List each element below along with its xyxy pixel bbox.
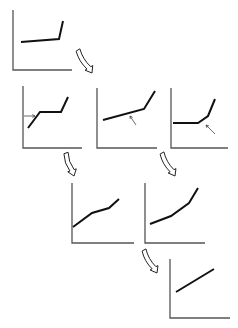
curve-line <box>176 269 214 292</box>
curved-arrow-icon-middle-center-to-lower-right <box>160 152 176 176</box>
curve-line <box>28 97 68 128</box>
curved-arrow-icon-top-to-middle <box>76 49 93 73</box>
axes <box>171 88 228 148</box>
panel-lower-left <box>72 183 134 243</box>
chart-panels <box>13 10 230 318</box>
panel-lower-right <box>145 183 205 243</box>
axes <box>23 86 82 148</box>
curved-arrow-icon-lower-right-to-bottom <box>142 249 158 273</box>
panel-middle-left <box>23 86 82 148</box>
curve-line <box>21 21 63 42</box>
curve-line <box>73 199 119 227</box>
axes <box>170 259 230 318</box>
axes <box>97 88 157 148</box>
curved-arrow-icon-middle-left-to-lower-left <box>64 152 76 176</box>
panel-top <box>13 10 72 70</box>
curve-line <box>150 188 198 224</box>
flow-arrows <box>64 49 176 273</box>
pointer-arrow-icon <box>24 115 35 118</box>
panel-bottom <box>170 259 230 318</box>
pointer-arrow-icon <box>206 125 215 134</box>
curve-line <box>103 91 155 120</box>
axes <box>72 183 134 243</box>
pointer-arrow-icon <box>130 116 136 125</box>
curve-line <box>173 99 215 123</box>
diagram-canvas <box>0 0 238 328</box>
panel-middle-right <box>171 88 228 148</box>
panel-middle-center <box>97 88 157 148</box>
